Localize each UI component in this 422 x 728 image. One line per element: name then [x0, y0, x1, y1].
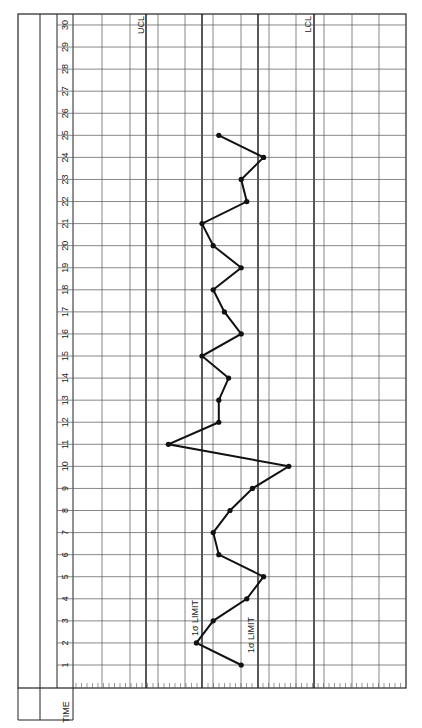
svg-text:28: 28 [60, 64, 70, 74]
svg-text:24: 24 [60, 152, 70, 162]
svg-text:19: 19 [60, 263, 70, 273]
chart-grid [57, 14, 406, 688]
svg-text:8: 8 [60, 508, 70, 513]
svg-text:10: 10 [60, 461, 70, 471]
svg-text:22: 22 [60, 197, 70, 207]
svg-text:25: 25 [60, 130, 70, 140]
time-axis-title: TIME [61, 701, 71, 723]
sigma-upper-label: 1σ LIMIT [190, 599, 200, 636]
svg-text:13: 13 [60, 395, 70, 405]
svg-text:30: 30 [60, 20, 70, 30]
svg-text:20: 20 [60, 241, 70, 251]
svg-text:12: 12 [60, 417, 70, 427]
svg-text:9: 9 [60, 486, 70, 491]
svg-text:5: 5 [60, 574, 70, 579]
svg-text:2: 2 [60, 640, 70, 645]
ucl-label: UCL [136, 16, 146, 34]
svg-text:18: 18 [60, 285, 70, 295]
control-chart: 1234567891011121314151617181920212223242… [0, 0, 422, 728]
sigma-lower-label: 1σ LIMIT [246, 616, 256, 653]
svg-text:16: 16 [60, 329, 70, 339]
svg-text:27: 27 [60, 86, 70, 96]
svg-text:17: 17 [60, 307, 70, 317]
svg-text:29: 29 [60, 42, 70, 52]
svg-text:21: 21 [60, 219, 70, 229]
svg-text:1: 1 [60, 662, 70, 667]
svg-text:7: 7 [60, 530, 70, 535]
time-axis-labels: 1234567891011121314151617181920212223242… [60, 20, 70, 668]
svg-text:26: 26 [60, 108, 70, 118]
svg-text:4: 4 [60, 596, 70, 601]
svg-text:15: 15 [60, 351, 70, 361]
svg-text:3: 3 [60, 618, 70, 623]
svg-text:14: 14 [60, 373, 70, 383]
chart-frame [18, 14, 406, 720]
svg-text:6: 6 [60, 552, 70, 557]
svg-text:11: 11 [60, 440, 70, 449]
lcl-label: LCL [303, 16, 313, 33]
svg-text:23: 23 [60, 174, 70, 184]
